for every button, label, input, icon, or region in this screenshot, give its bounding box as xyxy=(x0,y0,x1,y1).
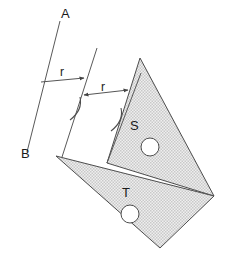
figure-canvas: A B S T r r xyxy=(0,0,232,267)
shaded-shapes xyxy=(56,58,214,248)
tick-arc-group xyxy=(70,97,122,131)
axis-line-ab xyxy=(27,21,60,152)
label-shape-s: S xyxy=(130,118,139,133)
dimension-line-r-second xyxy=(84,90,128,95)
axis-line-mid xyxy=(62,48,97,157)
triangle-t-hole xyxy=(121,205,139,223)
label-shape-t: T xyxy=(122,185,130,200)
label-point-a: A xyxy=(61,6,70,21)
label-distance-2: r xyxy=(101,80,105,94)
geometry-diagram: A B S T r r xyxy=(0,0,232,267)
label-point-b: B xyxy=(21,146,30,161)
triangle-s-hole xyxy=(141,138,159,156)
label-distance-1: r xyxy=(60,65,64,79)
